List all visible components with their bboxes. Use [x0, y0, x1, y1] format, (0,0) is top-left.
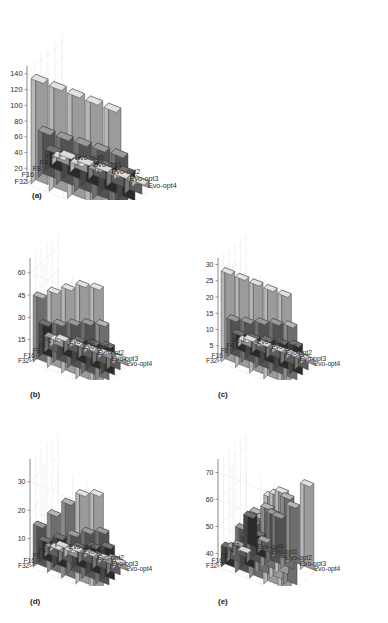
svg-text:10: 10 — [206, 326, 214, 333]
svg-text:Evo-opt4: Evo-opt4 — [126, 360, 153, 368]
svg-text:30: 30 — [206, 261, 214, 268]
svg-text:10: 10 — [18, 535, 26, 542]
svg-text:F2: F2 — [232, 337, 240, 344]
svg-text:30: 30 — [18, 478, 26, 485]
panel-c: 51015202530F32F16F8F4F2Evo-opt0Evo-opt1E… — [194, 205, 388, 380]
panel-d-label: (d) — [30, 597, 40, 606]
panel-b: 15304560F32F16F8F4F2Evo-opt0Evo-opt1Evo-… — [0, 205, 194, 380]
svg-text:30: 30 — [18, 314, 26, 321]
svg-text:Evo-opt4: Evo-opt4 — [126, 565, 153, 573]
svg-text:120: 120 — [10, 85, 22, 94]
svg-text:70: 70 — [206, 469, 214, 476]
svg-text:100: 100 — [10, 101, 22, 110]
svg-text:F2: F2 — [47, 151, 55, 160]
svg-text:Evo-opt4: Evo-opt4 — [314, 565, 341, 573]
svg-text:15: 15 — [18, 336, 26, 343]
panel-c-label: (c) — [218, 390, 228, 399]
svg-text:20: 20 — [206, 294, 214, 301]
svg-text:F2: F2 — [44, 542, 52, 549]
panel-b-label: (b) — [30, 390, 40, 399]
z-tick-labels: 102030 — [18, 478, 30, 542]
panel-d: 102030F32F16F8F4F2Evo-opt0Evo-opt1Evo-op… — [0, 408, 194, 586]
panel-e: 40506070F32F16F8F4F2Evo-opt0Evo-opt1Evo-… — [194, 408, 388, 586]
svg-text:15: 15 — [206, 310, 214, 317]
panel-a-label: (a) — [32, 191, 42, 200]
svg-text:140: 140 — [10, 69, 22, 78]
z-tick-labels: 51015202530 — [206, 261, 218, 349]
svg-text:20: 20 — [18, 507, 26, 514]
svg-text:Evo-opt4: Evo-opt4 — [314, 360, 341, 368]
svg-text:50: 50 — [206, 523, 214, 530]
svg-text:60: 60 — [206, 496, 214, 503]
svg-text:60: 60 — [14, 132, 22, 141]
svg-text:Evo-opt4: Evo-opt4 — [148, 181, 177, 190]
z-tick-labels: 20406080100120140 — [10, 69, 27, 172]
bar-3d — [244, 511, 257, 547]
svg-text:40: 40 — [14, 148, 22, 157]
panel-a: 20406080100120140F32F16F8F4F2Evo-opt0Evo… — [0, 0, 260, 200]
svg-text:F2: F2 — [44, 337, 52, 344]
z-tick-labels: 40506070 — [206, 469, 218, 557]
svg-text:80: 80 — [14, 117, 22, 126]
svg-text:60: 60 — [18, 269, 26, 276]
panel-e-label: (e) — [218, 597, 228, 606]
svg-text:45: 45 — [18, 292, 26, 299]
svg-text:F2: F2 — [232, 542, 240, 549]
svg-text:25: 25 — [206, 277, 214, 284]
z-tick-labels: 15304560 — [18, 269, 30, 343]
figure-container: 20406080100120140F32F16F8F4F2Evo-opt0Evo… — [0, 0, 388, 623]
svg-text:5: 5 — [210, 342, 214, 349]
